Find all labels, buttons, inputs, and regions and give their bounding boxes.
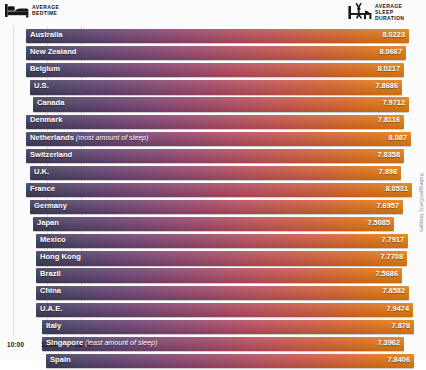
bed-icon	[5, 3, 29, 22]
header-average-bedtime: AVERAGE BEDTIME	[5, 3, 59, 22]
country-label: Brazil	[36, 267, 61, 281]
chart-row: Hong Kong7.7708	[0, 250, 426, 267]
bar-china[interactable]	[36, 286, 409, 300]
country-label: U.S.	[30, 79, 49, 93]
bar-switzerland[interactable]	[26, 149, 404, 163]
bar-belgium[interactable]	[26, 63, 404, 77]
country-label: New Zealand	[26, 45, 76, 59]
chart-row: U.S.7.8686	[0, 79, 426, 96]
chart-row: U.A.E.7.9474	[0, 302, 426, 319]
country-label: U.A.E.	[36, 302, 62, 316]
header-left-line2: BEDTIME	[32, 10, 59, 16]
country-label: Mexico	[36, 233, 66, 247]
chart-bar-rows: Australia8.0223New Zealand8.0667Belgium8…	[0, 28, 426, 370]
sleep-duration-value: 8.0667	[379, 45, 402, 59]
bar-u-k[interactable]	[30, 166, 401, 180]
bar-australia[interactable]	[26, 29, 409, 43]
bar-france[interactable]	[26, 183, 412, 197]
sleep-duration-value: 8.0223	[382, 28, 405, 42]
bar-germany[interactable]	[30, 200, 403, 214]
country-label: Belgium	[26, 62, 60, 76]
country-label: Australia	[26, 28, 63, 42]
sleep-duration-value: 7.3962	[377, 336, 400, 350]
sleep-duration-value: 7.8358	[377, 148, 400, 162]
bar-spain[interactable]	[46, 354, 414, 368]
country-label: Canada	[33, 96, 64, 110]
chart-row: Brazil7.5686	[0, 267, 426, 284]
chart-row: Switzerland7.8358	[0, 148, 426, 165]
header-left-text: AVERAGE BEDTIME	[32, 3, 59, 16]
chart-row: U.K.7.898	[0, 165, 426, 182]
country-note: (least amount of sleep)	[83, 339, 157, 347]
photo-credit: hubegger/Getty Images	[419, 174, 425, 232]
sleep-duration-value: 7.6957	[376, 199, 399, 213]
country-label: Denmark	[26, 113, 63, 127]
sleep-duration-value: 8.0217	[377, 62, 400, 76]
chart-row: China7.8582	[0, 284, 426, 301]
person-stretching-waking-icon	[348, 2, 372, 24]
country-label: Netherlands (most amount of sleep)	[26, 131, 148, 145]
chart-row: Netherlands (most amount of sleep)8.087	[0, 131, 426, 148]
chart-row: Italy7.878	[0, 319, 426, 336]
bar-canada[interactable]	[33, 97, 409, 111]
sleep-duration-value: 8.0531	[385, 182, 408, 196]
chart-row: Canada7.9712	[0, 96, 426, 113]
sleep-duration-value: 7.5686	[375, 267, 398, 281]
header-average-sleep-duration: AVERAGE SLEEP DURATION	[348, 2, 404, 24]
country-label: U.K.	[30, 165, 49, 179]
axis-tick-0: 10:00	[7, 341, 24, 348]
chart-row: France8.0531	[0, 182, 426, 199]
bar-hong-kong[interactable]	[36, 251, 407, 265]
sleep-duration-value: 7.898	[379, 165, 398, 179]
country-label: Italy	[42, 319, 61, 333]
country-label: Hong Kong	[36, 250, 81, 264]
chart-row: Denmark7.8116	[0, 113, 426, 130]
sleep-duration-value: 7.7708	[380, 250, 403, 264]
bar-u-a-e[interactable]	[36, 303, 413, 317]
header-right-text: AVERAGE SLEEP DURATION	[375, 2, 404, 21]
sleep-duration-value: 7.8686	[375, 79, 398, 93]
country-label: Japan	[33, 216, 59, 230]
chart-row: New Zealand8.0667	[0, 45, 426, 62]
sleep-duration-value: 7.7917	[381, 233, 404, 247]
country-label: France	[26, 182, 55, 196]
sleep-duration-value: 7.5085	[367, 216, 390, 230]
sleep-duration-value: 8.087	[389, 131, 408, 145]
sleep-duration-value: 7.878	[392, 319, 411, 333]
header-right-line3: DURATION	[375, 15, 404, 21]
chart-row: Mexico7.7917	[0, 233, 426, 250]
bar-u-s[interactable]	[30, 80, 402, 94]
bar-brazil[interactable]	[36, 268, 402, 282]
bar-new-zealand[interactable]	[26, 46, 406, 60]
sleep-duration-value: 7.8582	[382, 284, 405, 298]
country-label: Switzerland	[26, 148, 72, 162]
sleep-duration-value: 7.8116	[378, 113, 400, 127]
country-label: Germany	[30, 199, 67, 213]
chart-row: Spain7.8406	[0, 353, 426, 370]
country-note: (most amount of sleep)	[74, 134, 149, 142]
bar-japan[interactable]	[33, 217, 394, 231]
sleep-duration-value: 7.9712	[382, 96, 405, 110]
country-label: Spain	[46, 353, 71, 367]
bar-italy[interactable]	[42, 320, 414, 334]
chart-row: Australia8.0223	[0, 28, 426, 45]
infographic-header: AVERAGE BEDTIME AVERAGE	[0, 0, 426, 26]
chart-row: Belgium8.0217	[0, 62, 426, 79]
chart-row: Germany7.6957	[0, 199, 426, 216]
country-label: China	[36, 284, 61, 298]
bar-denmark[interactable]	[26, 115, 404, 129]
chart-row: Japan7.5085	[0, 216, 426, 233]
country-label: Singapore (least amount of sleep)	[42, 336, 157, 350]
bar-mexico[interactable]	[36, 234, 408, 248]
sleep-duration-value: 7.9474	[386, 302, 409, 316]
sleep-duration-value: 7.8406	[387, 353, 410, 367]
